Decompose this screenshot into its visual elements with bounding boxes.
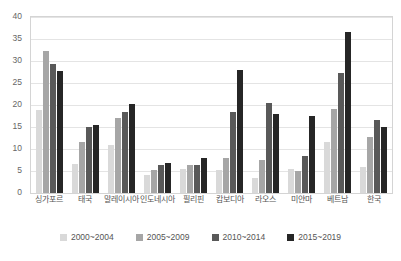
bar (165, 163, 171, 193)
legend-label: 2010~2014 (223, 233, 266, 242)
y-axis-tick-label: 20 (13, 100, 22, 109)
bar (216, 170, 222, 193)
bar-group (211, 17, 247, 193)
legend-label: 2005~2009 (147, 233, 190, 242)
bar (194, 165, 200, 193)
bars-layer (31, 17, 392, 193)
legend-label: 2000~2004 (71, 233, 114, 242)
chart-legend: 2000~20042005~20092010~20142015~2019 (0, 233, 401, 242)
x-axis-category-label: 싱가포르 (31, 196, 67, 205)
bar (72, 164, 78, 193)
bar (50, 64, 56, 193)
bar (57, 71, 63, 193)
legend-swatch-icon (136, 234, 143, 241)
x-axis: 싱가포르태국말레이시아인도네시아필리핀캄보디아라오스미얀마베트남한국 (31, 196, 392, 205)
x-axis-category-label: 필리핀 (175, 196, 211, 205)
bar-group (175, 17, 211, 193)
bar (86, 127, 92, 193)
bar-group (139, 17, 175, 193)
bar (360, 167, 366, 193)
bar (252, 178, 258, 193)
bar-group (67, 17, 103, 193)
x-axis-category-label: 라오스 (248, 196, 284, 205)
bar (295, 171, 301, 193)
bar (129, 104, 135, 193)
bar (309, 116, 315, 193)
bar (381, 127, 387, 193)
bar (331, 109, 337, 193)
legend-item[interactable]: 2000~2004 (60, 233, 114, 242)
y-axis-tick-label: 15 (13, 122, 22, 131)
bar (115, 118, 121, 193)
x-axis-category-label: 베트남 (320, 196, 356, 205)
bar (273, 114, 279, 193)
bar-group (31, 17, 67, 193)
bar-group (103, 17, 139, 193)
y-axis: 0510152025303540 (0, 16, 26, 194)
bar (187, 165, 193, 193)
bar (374, 120, 380, 193)
legend-swatch-icon (287, 234, 294, 241)
bar (144, 175, 150, 193)
bar (223, 158, 229, 193)
y-axis-tick-label: 30 (13, 56, 22, 65)
legend-swatch-icon (60, 234, 67, 241)
bar (43, 51, 49, 193)
bar (79, 142, 85, 193)
bar (108, 145, 114, 193)
bar (338, 73, 344, 193)
bar-group (356, 17, 392, 193)
bar (180, 169, 186, 193)
legend-label: 2015~2019 (298, 233, 341, 242)
bar (302, 156, 308, 193)
bar (345, 32, 351, 193)
bar (367, 137, 373, 193)
bar (230, 112, 236, 193)
bar (151, 170, 157, 193)
bar (288, 169, 294, 193)
y-axis-tick-label: 40 (13, 12, 22, 21)
y-axis-tick-label: 35 (13, 34, 22, 43)
bar (158, 165, 164, 193)
bar (259, 160, 265, 193)
x-axis-category-label: 미얀마 (284, 196, 320, 205)
bar (237, 70, 243, 193)
x-axis-category-label: 인도네시아 (139, 196, 175, 205)
bar (324, 142, 330, 193)
bar (201, 158, 207, 193)
bar (93, 125, 99, 193)
legend-swatch-icon (212, 234, 219, 241)
bar (266, 103, 272, 193)
y-axis-tick-label: 5 (17, 166, 22, 175)
bar (36, 110, 42, 193)
bar-group (284, 17, 320, 193)
y-axis-tick-label: 10 (13, 144, 22, 153)
legend-item[interactable]: 2005~2009 (136, 233, 190, 242)
legend-item[interactable]: 2015~2019 (287, 233, 341, 242)
y-axis-tick-label: 0 (17, 188, 22, 197)
legend-item[interactable]: 2010~2014 (212, 233, 266, 242)
bar-group (248, 17, 284, 193)
bar-chart: 0510152025303540 싱가포르태국말레이시아인도네시아필리핀캄보디아… (0, 0, 401, 261)
bar-group (320, 17, 356, 193)
x-axis-category-label: 캄보디아 (211, 196, 247, 205)
x-axis-category-label: 말레이시아 (103, 196, 139, 205)
x-axis-category-label: 태국 (67, 196, 103, 205)
bar (122, 112, 128, 193)
y-axis-tick-label: 25 (13, 78, 22, 87)
x-axis-category-label: 한국 (356, 196, 392, 205)
